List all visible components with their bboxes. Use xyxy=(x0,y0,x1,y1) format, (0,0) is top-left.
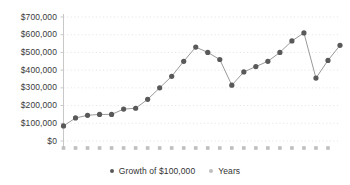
years-marker xyxy=(230,146,234,150)
growth-data-point xyxy=(229,83,234,88)
growth-data-point xyxy=(277,50,282,55)
growth-data-point xyxy=(253,64,258,69)
growth-data-point xyxy=(337,43,342,48)
years-marker xyxy=(254,146,258,150)
years-marker xyxy=(278,146,282,150)
growth-data-point xyxy=(325,58,330,63)
years-marker xyxy=(290,146,294,150)
years-marker xyxy=(62,146,66,150)
chart-container: $0$100,000$200,000$300,000$400,000$500,0… xyxy=(0,0,350,185)
growth-data-point xyxy=(133,106,138,111)
growth-data-point xyxy=(289,38,294,43)
growth-data-point xyxy=(109,112,114,117)
growth-data-point xyxy=(73,115,78,120)
growth-line xyxy=(64,33,341,126)
growth-data-point xyxy=(157,85,162,90)
years-marker xyxy=(302,146,306,150)
growth-data-point xyxy=(217,57,222,62)
growth-data-point xyxy=(181,59,186,64)
growth-data-point xyxy=(169,74,174,79)
years-marker xyxy=(146,146,150,150)
years-marker xyxy=(242,146,246,150)
legend-marker-icon xyxy=(209,169,213,173)
legend-item-label: Years xyxy=(218,166,240,176)
growth-data-point xyxy=(265,59,270,64)
years-marker xyxy=(206,146,210,150)
legend-item[interactable]: Growth of $100,000 xyxy=(110,166,195,176)
years-marker xyxy=(158,146,162,150)
years-marker xyxy=(170,146,174,150)
growth-data-point xyxy=(301,30,306,35)
growth-data-point xyxy=(313,76,318,81)
years-marker xyxy=(182,146,186,150)
legend-item[interactable]: Years xyxy=(209,166,240,176)
years-marker xyxy=(326,146,330,150)
chart-legend: Growth of $100,000Years xyxy=(0,160,350,182)
growth-data-point xyxy=(193,45,198,50)
legend-item-label: Growth of $100,000 xyxy=(119,166,195,176)
grid-lines xyxy=(64,17,341,141)
years-marker xyxy=(74,146,78,150)
series-growth xyxy=(61,30,343,128)
growth-data-point xyxy=(97,112,102,117)
growth-data-point xyxy=(85,113,90,118)
growth-data-point xyxy=(205,50,210,55)
growth-data-point xyxy=(61,123,66,128)
series-years xyxy=(62,146,330,150)
years-marker xyxy=(266,146,270,150)
years-marker xyxy=(218,146,222,150)
years-marker xyxy=(86,146,90,150)
chart-plot-area xyxy=(0,0,350,185)
legend-marker-icon xyxy=(110,169,114,173)
years-marker xyxy=(110,146,114,150)
years-marker xyxy=(194,146,198,150)
years-marker xyxy=(98,146,102,150)
growth-data-point xyxy=(121,107,126,112)
years-marker xyxy=(314,146,318,150)
growth-data-point xyxy=(145,97,150,102)
growth-data-point xyxy=(241,69,246,74)
years-marker xyxy=(134,146,138,150)
years-marker xyxy=(122,146,126,150)
